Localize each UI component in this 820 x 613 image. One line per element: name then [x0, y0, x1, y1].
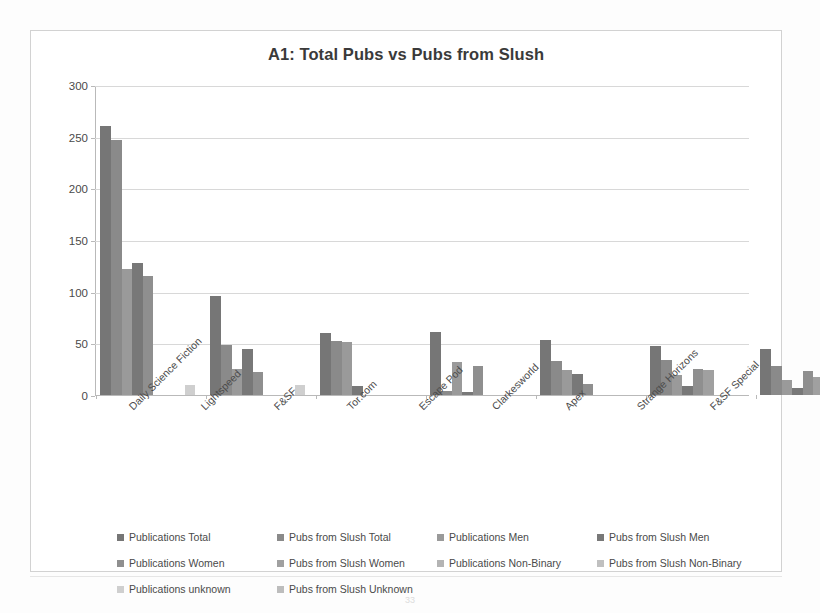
legend-swatch-icon — [277, 560, 284, 567]
x-axis-tick-label: F&SF — [271, 403, 280, 412]
legend-label: Pubs from Slush Unknown — [289, 583, 413, 595]
page-number: 33 — [0, 595, 820, 605]
legend-swatch-icon — [277, 586, 284, 593]
legend-label: Pubs from Slush Women — [289, 557, 405, 569]
legend-swatch-icon — [597, 560, 604, 567]
bar — [132, 263, 143, 395]
legend-label: Publications Women — [129, 557, 225, 569]
bar — [122, 269, 133, 395]
bar — [803, 371, 814, 395]
bar-group — [536, 86, 646, 395]
x-axis-tick-label: Daily Science Fiction — [126, 403, 135, 412]
x-axis-tick-label: Lightspeed — [198, 403, 207, 412]
y-axis-tick-mark — [91, 344, 95, 345]
y-axis-tick-mark — [91, 241, 95, 242]
y-axis-tick-label: 50 — [75, 338, 88, 350]
bar — [540, 340, 551, 395]
bar-group-inner — [316, 86, 426, 395]
bar-group-inner — [756, 86, 820, 395]
bar — [100, 126, 111, 395]
y-axis-tick-label: 150 — [69, 235, 88, 247]
legend-swatch-icon — [117, 586, 124, 593]
y-axis-tick-label: 100 — [69, 287, 88, 299]
legend-item[interactable]: Publications Men — [437, 531, 597, 543]
legend-label: Pubs from Slush Men — [609, 531, 709, 543]
x-axis-tick-label: Escape Pod — [416, 403, 425, 412]
legend-item[interactable]: Publications unknown — [117, 583, 277, 595]
bar-group-inner — [536, 86, 646, 395]
bar — [792, 388, 803, 395]
bar-group — [426, 86, 536, 395]
bar — [473, 366, 484, 395]
legend-item[interactable]: Pubs from Slush Total — [277, 531, 437, 543]
legend-item[interactable]: Publications Total — [117, 531, 277, 543]
x-axis-tick-label: Strange Horizons — [634, 403, 643, 412]
y-axis-tick-mark — [91, 293, 95, 294]
bar-group — [756, 86, 820, 395]
legend-swatch-icon — [277, 534, 284, 541]
legend-label: Publications Men — [449, 531, 529, 543]
bar-group-inner — [426, 86, 536, 395]
bar — [331, 341, 342, 395]
legend-label: Publications Non-Binary — [449, 557, 561, 569]
x-axis-tick-label: Clarkesworld — [489, 403, 498, 412]
bar — [253, 372, 264, 395]
x-axis-tick-label: Apex — [562, 403, 571, 412]
legend-item[interactable]: Pubs from Slush Non-Binary — [597, 557, 757, 569]
bar-group — [316, 86, 426, 395]
legend-swatch-icon — [437, 560, 444, 567]
bar-group — [206, 86, 316, 395]
legend-item[interactable]: Pubs from Slush Unknown — [277, 583, 437, 595]
legend-item[interactable]: Pubs from Slush Women — [277, 557, 437, 569]
bar-group-inner — [646, 86, 756, 395]
y-axis-tick-label: 300 — [69, 80, 88, 92]
bar — [562, 370, 573, 395]
bar — [342, 342, 353, 395]
legend-label: Pubs from Slush Non-Binary — [609, 557, 741, 569]
y-axis-tick-mark — [91, 86, 95, 87]
legend-swatch-icon — [117, 534, 124, 541]
bar-group — [646, 86, 756, 395]
bar — [682, 386, 693, 395]
chart-title: A1: Total Pubs vs Pubs from Slush — [31, 45, 781, 64]
legend-label: Publications Total — [129, 531, 211, 543]
chart-legend: Publications TotalPubs from Slush TotalP… — [117, 531, 757, 595]
y-axis-tick-label: 200 — [69, 183, 88, 195]
y-axis-tick-label: 250 — [69, 132, 88, 144]
legend-item[interactable]: Pubs from Slush Men — [597, 531, 757, 543]
legend-swatch-icon — [597, 534, 604, 541]
bar — [242, 349, 253, 396]
bar — [462, 392, 473, 395]
legend-item[interactable]: Publications Non-Binary — [437, 557, 597, 569]
bar — [760, 349, 771, 396]
x-axis-tick-label: F&SF Special — [707, 403, 716, 412]
bar — [782, 380, 793, 396]
bar — [703, 370, 714, 395]
y-axis-tick-mark — [91, 138, 95, 139]
legend-item[interactable]: Publications Women — [117, 557, 277, 569]
x-axis-tick-mark — [756, 395, 757, 399]
page-divider — [30, 576, 782, 577]
bar — [813, 377, 820, 395]
y-axis-tick-label: 0 — [82, 390, 88, 402]
bar — [551, 361, 562, 395]
page-canvas: A1: Total Pubs vs Pubs from Slush 050100… — [0, 0, 820, 613]
y-axis-tick-mark — [91, 396, 95, 397]
x-axis-tick-label: Tor.com — [344, 403, 353, 412]
bar — [111, 140, 122, 395]
bar-group-inner — [206, 86, 316, 395]
legend-label: Pubs from Slush Total — [289, 531, 391, 543]
bar — [210, 296, 221, 395]
y-axis-tick-mark — [91, 189, 95, 190]
bar — [320, 333, 331, 395]
bar — [771, 366, 782, 395]
bar — [185, 385, 196, 395]
x-axis-labels: Daily Science FictionLightspeedF&SFTor.c… — [95, 399, 749, 489]
chart-container: A1: Total Pubs vs Pubs from Slush 050100… — [30, 30, 782, 572]
legend-swatch-icon — [437, 534, 444, 541]
bar — [693, 369, 704, 395]
legend-label: Publications unknown — [129, 583, 231, 595]
legend-swatch-icon — [117, 560, 124, 567]
